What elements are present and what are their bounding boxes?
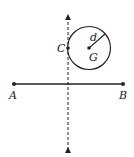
label-c: C <box>57 42 66 55</box>
label-g: G <box>89 51 98 64</box>
point-b <box>121 82 125 86</box>
label-b: B <box>118 89 127 102</box>
label-d: d <box>90 31 97 44</box>
geometry-diagram: A B C G d <box>0 0 134 157</box>
point-a <box>12 82 16 86</box>
label-a: A <box>8 89 17 102</box>
point-c <box>66 46 70 50</box>
